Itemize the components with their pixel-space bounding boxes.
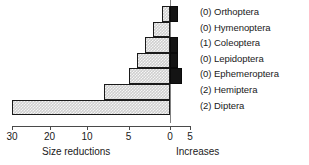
axis-tick	[190, 126, 191, 130]
category-label: (2) Diptera	[200, 98, 309, 114]
bar-increase	[170, 37, 178, 53]
axis-caption-right: Increases	[176, 146, 219, 158]
axis-tick-label: 5	[176, 131, 204, 142]
axis-tick	[129, 126, 130, 130]
category-label: (2) Hemiptera	[200, 82, 309, 98]
bar-increase	[170, 6, 178, 22]
axis-tick-label: 20	[36, 131, 64, 142]
bar-increase	[170, 53, 178, 69]
bar-reduction	[12, 100, 170, 116]
category-label: (0) Lepidoptera	[200, 51, 309, 67]
category-label: (0) Hymenoptera	[200, 20, 309, 36]
category-label: (0) Ephemeroptera	[200, 66, 309, 82]
bar-reduction	[162, 6, 170, 22]
bar-reduction	[137, 53, 170, 69]
axis-caption-left: Size reductions	[42, 146, 110, 158]
bar-increase	[170, 68, 182, 84]
axis-tick	[12, 126, 13, 130]
category-label-list: (0) Orthoptera(0) Hymenoptera(1) Coleopt…	[200, 4, 309, 113]
bar-reduction	[153, 22, 170, 38]
axis-tick-label: 10	[73, 131, 101, 142]
diverging-bar-chart: 302010505 Size reductions Increases (0) …	[0, 0, 309, 165]
bar-reduction	[145, 37, 170, 53]
category-label: (0) Orthoptera	[200, 4, 309, 20]
category-label: (1) Coleoptera	[200, 35, 309, 51]
axis-tick	[50, 126, 51, 130]
axis-tick-label: 5	[115, 131, 143, 142]
axis-tick-label: 30	[0, 131, 26, 142]
axis-tick	[170, 126, 171, 130]
bar-reduction	[104, 84, 170, 100]
plot-area	[0, 0, 195, 122]
axis-tick	[87, 126, 88, 130]
bar-reduction	[129, 68, 171, 84]
axis-baseline	[12, 126, 190, 127]
